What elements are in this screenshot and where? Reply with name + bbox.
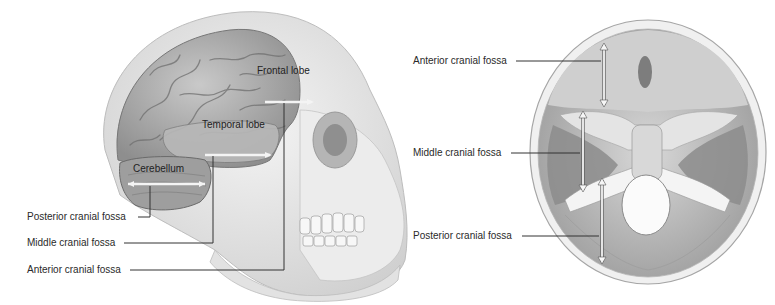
- temporal-lobe-label: Temporal lobe: [202, 119, 265, 131]
- cerebellum-label: Cerebellum: [133, 163, 184, 175]
- superior-posterior-fossa-label: Posterior cranial fossa: [413, 230, 512, 242]
- lateral-middle-fossa-label: Middle cranial fossa: [27, 237, 115, 249]
- lateral-posterior-fossa-label: Posterior cranial fossa: [27, 211, 126, 223]
- frontal-lobe-label: Frontal lobe: [257, 65, 310, 77]
- superior-anterior-fossa-label: Anterior cranial fossa: [413, 55, 507, 67]
- cranial-fossae-diagram: Frontal lobe Temporal lobe Cerebellum Po…: [0, 0, 775, 305]
- lateral-anterior-fossa-label: Anterior cranial fossa: [27, 264, 121, 276]
- cranial-base-illustration: [0, 0, 775, 305]
- superior-middle-fossa-label: Middle cranial fossa: [413, 147, 501, 159]
